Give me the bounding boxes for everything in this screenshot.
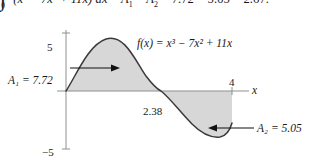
area-1-label: A₁ = 7.72 [8,74,53,86]
minus-sign-3: − [197,0,204,6]
area-symbol-a2: A [146,0,154,6]
function-label: f(x) = x³ − 7x² + 11x [137,37,232,49]
value-a2: 5.05 [208,0,230,6]
figure-container: (∫0 (x3 − 7x2 + 11x) dx = A1 − A2 = 7.72… [0,0,314,159]
minus-sign-2: − [136,0,143,6]
y-axis-tick-label-minus-5: −5 [42,146,54,158]
integrand-minus: − [31,0,38,6]
x-axis-root-label: 2.38 [143,105,162,117]
differential-dx: dx [96,0,108,6]
integral-lower-limit: 0 [1,1,5,10]
shaded-region-a2 [161,91,232,137]
area-2-label: A₂ = 5.05 [257,122,302,134]
value-a1: 7.72 [172,0,194,6]
integral-formula: (∫0 (x3 − 7x2 + 11x) dx = A1 − A2 = 7.72… [0,0,314,13]
equals-sign-1: = [111,0,118,6]
area-symbol-a1: A [121,0,129,6]
area-subscript-1: 1 [129,0,133,9]
x-axis-tick-label-4: 4 [229,76,235,88]
area-subscript-2: 2 [154,0,158,9]
x-axis-label: x [252,84,257,96]
equals-sign-3: = [233,0,240,6]
integrand-seven-x: 7x [41,0,53,6]
function-graph: f(x) = x³ − 7x² + 11x 5 −5 A₁ = 7.72 A₂ … [0,16,314,159]
net-area-result: 2.67. [243,0,269,6]
equals-sign-2: = [161,0,168,6]
integrand-plus: + [60,0,67,6]
integrand-close-paren: ) [88,0,92,6]
integrand-x: x [18,0,24,6]
y-axis-tick-label-5: 5 [47,41,53,53]
integrand-eleven-x: 11x [71,0,88,6]
